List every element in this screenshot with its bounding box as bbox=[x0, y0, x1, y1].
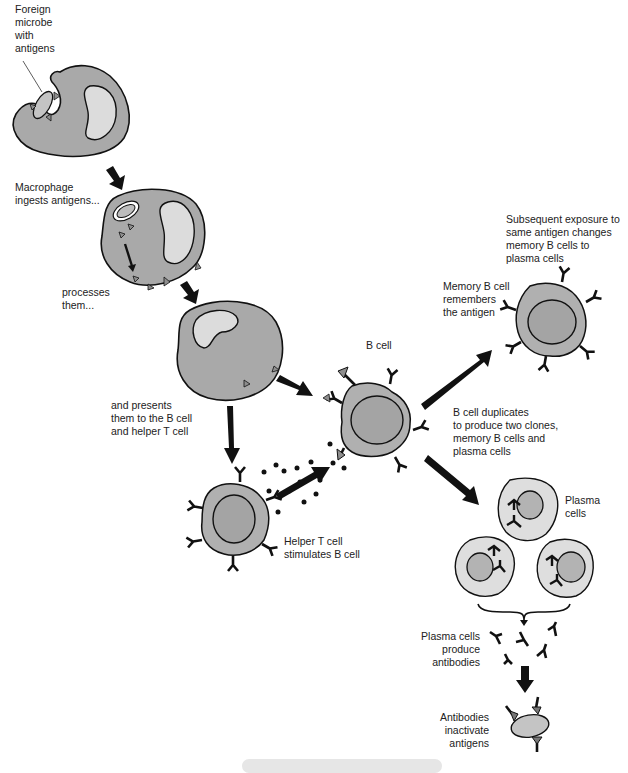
label-subsequent-exposure: Subsequent exposure to same antigen chan… bbox=[506, 213, 620, 265]
arrow-present-b bbox=[276, 375, 313, 396]
arrow-present-t bbox=[224, 406, 240, 464]
label-duplicates: B cell duplicates to produce two clones,… bbox=[453, 406, 558, 458]
memory-b-cell bbox=[500, 266, 601, 371]
free-antibodies bbox=[490, 622, 556, 664]
helper-t-cell bbox=[186, 467, 281, 571]
macrophage-presenting bbox=[177, 301, 282, 400]
plasma-cell-right bbox=[537, 539, 593, 597]
label-macrophage-ingests: Macrophage ingests antigens... bbox=[15, 181, 100, 207]
label-plasma-cells: Plasma cells bbox=[565, 494, 600, 520]
label-foreign-microbe: Foreign microbe with antigens bbox=[15, 3, 55, 55]
inactivated-antigen bbox=[506, 697, 551, 752]
macrophage-processing bbox=[101, 189, 204, 290]
arrow-produce bbox=[516, 666, 534, 693]
label-helper-t: Helper T cell stimulates B cell bbox=[284, 535, 360, 561]
label-processes: processes them... bbox=[62, 286, 110, 312]
microbe-pointer-line bbox=[23, 61, 42, 92]
b-cell bbox=[323, 367, 429, 472]
brace-arrow bbox=[520, 620, 528, 626]
arrow-to-memory bbox=[421, 350, 492, 410]
label-inactivate: Antibodies inactivate antigens bbox=[440, 711, 489, 750]
arrow-process bbox=[180, 281, 199, 304]
label-produce-antibodies: Plasma cells produce antibodies bbox=[421, 630, 480, 669]
label-presents: and presents them to the B cell and help… bbox=[111, 399, 192, 438]
label-memory-b: Memory B cell remembers the antigen bbox=[443, 280, 510, 319]
arrow-ingest bbox=[106, 166, 125, 190]
bottom-caption-bar bbox=[242, 759, 442, 773]
label-b-cell: B cell bbox=[366, 339, 392, 352]
plasma-cell-left bbox=[455, 537, 514, 596]
plasma-cell-top bbox=[498, 478, 557, 540]
arrow-to-plasma bbox=[424, 455, 479, 505]
brace bbox=[478, 604, 570, 620]
macrophage-engulfing bbox=[13, 66, 129, 157]
